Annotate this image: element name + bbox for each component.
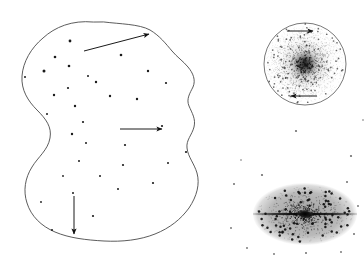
elliptical-star-speck xyxy=(287,227,288,228)
elliptical-star-speck xyxy=(303,195,304,196)
spiral-star-speck xyxy=(277,49,278,50)
elliptical-star-speck xyxy=(324,233,325,234)
spiral-star-speck xyxy=(287,91,288,92)
spiral-star-speck xyxy=(312,51,313,52)
spiral-star-speck xyxy=(330,50,331,51)
spiral-star-speck xyxy=(288,84,289,85)
spiral-bright-star xyxy=(317,28,319,30)
globular-cluster-dot xyxy=(300,201,303,204)
spiral-star-speck xyxy=(280,49,281,50)
astronomy-diagram xyxy=(0,0,364,266)
spiral-bright-star xyxy=(289,60,291,62)
spiral-star-speck xyxy=(322,30,323,31)
spiral-star-speck xyxy=(337,44,338,45)
spiral-star-speck xyxy=(315,63,316,64)
spiral-star-speck xyxy=(315,56,316,57)
spiral-star-speck xyxy=(338,52,339,53)
spiral-star-speck xyxy=(305,75,306,76)
spiral-star-speck xyxy=(301,98,302,99)
spiral-star-speck xyxy=(275,70,276,71)
spiral-star-speck xyxy=(295,75,296,76)
spiral-bright-star xyxy=(321,58,323,60)
spiral-star-speck xyxy=(274,75,275,76)
spiral-star-speck xyxy=(301,86,302,87)
spiral-star-speck xyxy=(311,101,312,102)
elliptical-star-speck xyxy=(339,233,340,234)
cloud-star xyxy=(54,56,57,59)
elliptical-star-speck xyxy=(293,208,294,209)
elliptical-star-speck xyxy=(330,226,331,227)
spiral-star-speck xyxy=(324,32,325,33)
elliptical-star-speck xyxy=(319,200,320,201)
spiral-star-speck xyxy=(328,48,329,49)
spiral-star-speck xyxy=(316,65,317,66)
spiral-star-speck xyxy=(318,58,319,59)
globular-cluster-dot xyxy=(308,198,311,201)
spiral-star-speck xyxy=(321,88,322,89)
spiral-star-speck xyxy=(274,71,275,72)
spiral-star-speck xyxy=(272,59,273,60)
spiral-star-speck xyxy=(297,42,298,43)
spiral-star-speck xyxy=(326,32,327,33)
spiral-star-speck xyxy=(337,66,338,67)
globular-cluster-dot xyxy=(324,205,327,208)
spiral-star-speck xyxy=(291,87,292,88)
spiral-star-speck xyxy=(271,76,272,77)
elliptical-star-speck xyxy=(303,235,304,236)
elliptical-star-speck xyxy=(289,202,290,203)
elliptical-star-speck xyxy=(341,221,342,222)
spiral-star-speck xyxy=(292,37,293,38)
globular-cluster-dot xyxy=(297,236,300,239)
spiral-star-speck xyxy=(314,70,315,71)
spiral-star-speck xyxy=(325,50,326,51)
spiral-star-speck xyxy=(320,31,321,32)
spiral-star-speck xyxy=(275,45,276,46)
spiral-star-speck xyxy=(321,41,322,42)
spiral-star-speck xyxy=(317,54,318,55)
globular-cluster-dot xyxy=(346,213,349,216)
spiral-star-speck xyxy=(292,62,293,63)
spiral-bright-star xyxy=(288,91,290,93)
spiral-star-speck xyxy=(292,39,293,40)
spiral-star-speck xyxy=(312,46,313,47)
spiral-star-speck xyxy=(298,90,299,91)
spiral-star-speck xyxy=(319,58,320,59)
spiral-star-speck xyxy=(334,54,335,55)
spiral-star-speck xyxy=(323,74,324,75)
elliptical-star-speck xyxy=(324,198,325,199)
spiral-star-speck xyxy=(302,75,303,76)
spiral-star-speck xyxy=(291,83,292,84)
spiral-star-speck xyxy=(295,95,296,96)
elliptical-star-speck xyxy=(304,221,305,222)
spiral-star-speck xyxy=(279,60,280,61)
elliptical-star-speck xyxy=(295,217,296,218)
spiral-star-speck xyxy=(308,94,309,95)
diagram-canvas xyxy=(0,0,364,266)
spiral-star-speck xyxy=(305,45,306,46)
spiral-star-speck xyxy=(300,70,301,71)
spiral-star-speck xyxy=(314,28,315,29)
elliptical-star-speck xyxy=(320,216,321,217)
spiral-star-speck xyxy=(285,48,286,49)
spiral-star-speck xyxy=(274,50,275,51)
spiral-bright-star xyxy=(290,37,292,39)
elliptical-star-speck xyxy=(304,208,305,209)
spiral-star-speck xyxy=(313,48,314,49)
cloud-star xyxy=(40,201,42,203)
spiral-star-speck xyxy=(303,28,304,29)
spiral-star-speck xyxy=(316,93,317,94)
spiral-star-speck xyxy=(294,55,295,56)
spiral-star-speck xyxy=(287,59,288,60)
spiral-star-speck xyxy=(268,56,269,57)
globular-cluster-dot xyxy=(340,225,343,228)
spiral-star-speck xyxy=(333,46,334,47)
spiral-star-speck xyxy=(309,91,310,92)
spiral-star-speck xyxy=(315,60,316,61)
elliptical-star-speck xyxy=(302,195,303,196)
spiral-star-speck xyxy=(279,83,280,84)
spiral-star-speck xyxy=(290,80,291,81)
spiral-star-speck xyxy=(320,29,321,30)
spiral-star-speck xyxy=(311,78,312,79)
elliptical-star-speck xyxy=(311,209,312,210)
field-star xyxy=(295,130,297,132)
